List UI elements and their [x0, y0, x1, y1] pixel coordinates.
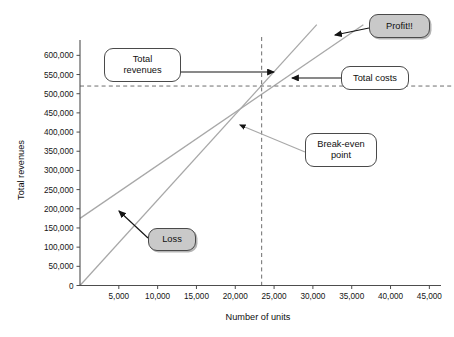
y-tick-label: 350,000: [44, 147, 74, 156]
y-tick-label: 150,000: [44, 224, 74, 233]
x-axis-title: Number of units: [226, 312, 291, 322]
callout-break-even-point[interactable]: Break-even point: [305, 133, 377, 167]
x-tick-label: 10,000: [145, 292, 170, 301]
y-tick-label: 600,000: [44, 51, 74, 60]
y-tick-label: 450,000: [44, 109, 74, 118]
callout-total-revenues[interactable]: Total revenues: [104, 48, 181, 82]
x-tick-label: 40,000: [378, 292, 403, 301]
y-tick-label: 200,000: [44, 205, 74, 214]
y-tick-label: 0: [69, 282, 74, 291]
callout-total-costs[interactable]: Total costs: [341, 66, 409, 90]
x-tick-label: 35,000: [339, 292, 364, 301]
arrow-break-even-point: [240, 125, 305, 152]
break-even-chart: 050,000100,000150,000200,000250,000300,0…: [0, 0, 454, 337]
x-tick-label: 30,000: [300, 292, 325, 301]
y-tick-label: 550,000: [44, 71, 74, 80]
y-axis-ticks: 050,000100,000150,000200,000250,000300,0…: [44, 51, 80, 290]
x-tick-label: 20,000: [223, 292, 248, 301]
y-tick-label: 100,000: [44, 243, 74, 252]
y-tick-label: 400,000: [44, 128, 74, 137]
y-tick-label: 500,000: [44, 90, 74, 99]
x-tick-label: 45,000: [417, 292, 442, 301]
y-axis-title: Total revenues: [16, 140, 26, 200]
callout-loss[interactable]: Loss: [148, 228, 196, 251]
chart-canvas: 050,000100,000150,000200,000250,000300,0…: [0, 0, 454, 337]
y-tick-label: 250,000: [44, 186, 74, 195]
arrow-profit: [335, 28, 369, 35]
x-tick-label: 5,000: [109, 292, 130, 301]
y-tick-label: 300,000: [44, 166, 74, 175]
callout-profit[interactable]: Profit!!: [369, 14, 430, 38]
x-tick-label: 25,000: [262, 292, 287, 301]
y-tick-label: 50,000: [48, 262, 73, 271]
x-tick-label: 15,000: [184, 292, 209, 301]
x-axis-ticks: 5,00010,00015,00020,00025,00030,00035,00…: [109, 286, 443, 301]
